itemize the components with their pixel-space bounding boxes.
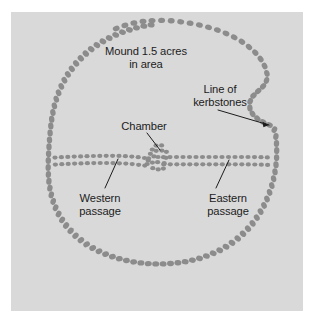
- label-line-of-kerbstones: Line of kerbstones: [172, 83, 268, 108]
- chamber-cruciform: [145, 143, 169, 171]
- label-western-passage: Western passage: [55, 192, 145, 217]
- leader-kerbstones: [218, 110, 269, 125]
- label-mound-area: Mound 1.5 acres in area: [78, 45, 214, 70]
- eastern-passage-walls: [161, 155, 270, 167]
- label-chamber: Chamber: [98, 120, 190, 133]
- figure-page: Mound 1.5 acres in area Line of kerbston…: [0, 0, 315, 323]
- western-passage-walls: [52, 154, 150, 168]
- label-eastern-passage: Eastern passage: [183, 192, 273, 217]
- leader-chamber: [147, 133, 160, 150]
